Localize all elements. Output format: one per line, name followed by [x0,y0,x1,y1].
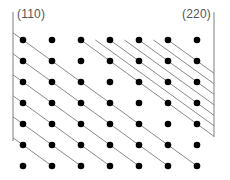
plane-line-220 [125,40,215,105]
lattice-atom-dot [136,79,143,86]
plane-line-220 [81,40,214,136]
plane-line-110 [13,96,110,166]
lattice-atom-dot [194,58,201,65]
lattice-atom-dot [107,121,114,128]
miller-index-label-110: (110) [17,7,45,21]
lattice-atom-dot [194,142,201,149]
lattice-atom-dot [165,163,172,170]
lattice-atom-dot [78,100,85,107]
lattice-atom-dot [49,37,56,44]
lattice-atom-dot [20,142,27,149]
frame-edges [13,12,214,141]
lattice-atom-dot [165,58,172,65]
lattice-atom-dot [20,163,27,170]
lattice-atom-dot [107,79,114,86]
lattice-atom-dot [165,79,172,86]
lattice-atom-dot [78,58,85,65]
lattice-atom-dot [107,37,114,44]
lattice-atom-dot [20,100,27,107]
lattice-atom-dot [78,142,85,149]
lattice-atom-dot [165,121,172,128]
lattice-atom-dot [107,100,114,107]
lattice-atom-dot [20,79,27,86]
lattice-atom-dot [107,142,114,149]
lattice-atom-dot [194,100,201,107]
lattice-atom-dot [136,142,143,149]
lattice-atom-dot [136,100,143,107]
plane-line-110 [13,75,139,166]
lattice-atom-dot [165,100,172,107]
lattice-atom-dot [78,79,85,86]
lattice-atom-dot [136,121,143,128]
lattice-atom-dot [20,58,27,65]
lattice-atom-dot [194,163,201,170]
lattice-atom-dot [136,58,143,65]
lattice-atom-dot [107,58,114,65]
lattice-atom-dot [78,121,85,128]
lattice-atom-dot [136,37,143,44]
lattice-atom-dot [49,79,56,86]
lattice-atom-dot [107,163,114,170]
lattice-atom-dot [20,121,27,128]
plane-line-220 [168,40,214,73]
miller-index-label-220: (220) [182,7,211,21]
lattice-dots [20,37,201,170]
lattice-atom-dot [78,37,85,44]
lattice-atom-dot [20,37,27,44]
lattice-atom-dot [49,121,56,128]
lattice-atom-dot [165,142,172,149]
lattice-atom-dot [194,37,201,44]
lattice-atom-dot [194,79,201,86]
lattice-plane-diagram [0,0,230,180]
lattice-atom-dot [194,121,201,128]
plane-line-220 [154,40,215,84]
lattice-atom-dot [49,142,56,149]
lattice-atom-dot [78,163,85,170]
plane-line-110 [13,138,52,166]
lattice-atom-dot [49,100,56,107]
lattice-atom-dot [49,163,56,170]
plane-line-220 [139,40,214,94]
lattice-atom-dot [136,163,143,170]
lattice-atom-dot [165,37,172,44]
plane-line-110 [13,54,168,166]
planes-220-lines [81,40,214,136]
lattice-atom-dot [49,58,56,65]
